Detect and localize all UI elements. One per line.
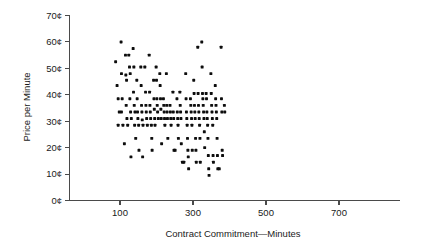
data-point xyxy=(212,154,215,157)
data-point xyxy=(155,97,158,100)
data-point xyxy=(211,111,214,114)
data-point xyxy=(128,97,131,100)
data-point xyxy=(180,117,183,120)
x-axis-tick-label: 100 xyxy=(112,207,128,218)
data-point xyxy=(223,111,226,114)
data-point xyxy=(136,111,139,114)
data-point xyxy=(162,97,165,100)
data-point xyxy=(201,92,204,95)
data-point xyxy=(160,117,163,120)
data-point xyxy=(211,117,214,120)
data-point xyxy=(166,137,169,140)
data-points-layer xyxy=(114,40,226,176)
data-point xyxy=(197,111,200,114)
data-point xyxy=(172,111,175,114)
data-point xyxy=(221,154,224,157)
data-point xyxy=(125,79,128,82)
data-point xyxy=(203,146,206,149)
data-point xyxy=(178,91,181,94)
data-point xyxy=(220,97,223,100)
data-point xyxy=(126,124,129,127)
data-point xyxy=(152,79,155,82)
data-point xyxy=(186,137,189,140)
data-point xyxy=(193,104,196,107)
data-point xyxy=(196,46,199,49)
data-point xyxy=(133,124,136,127)
y-axis-tick-label: 50¢ xyxy=(46,63,62,74)
data-point xyxy=(153,97,156,100)
data-point xyxy=(220,46,223,49)
data-point xyxy=(190,117,193,120)
data-point xyxy=(135,79,138,82)
data-point xyxy=(162,104,165,107)
data-point xyxy=(221,149,224,152)
data-point xyxy=(163,117,166,120)
data-point xyxy=(185,111,188,114)
data-point xyxy=(214,84,217,87)
data-point xyxy=(129,111,132,114)
data-point xyxy=(116,84,119,87)
data-point xyxy=(156,111,159,114)
data-point xyxy=(158,72,161,75)
data-point xyxy=(223,104,226,107)
data-point xyxy=(127,54,130,57)
data-point xyxy=(169,111,172,114)
data-point xyxy=(166,111,169,114)
data-point xyxy=(190,124,193,127)
data-point xyxy=(200,40,203,43)
y-axis-tick-label: 60¢ xyxy=(46,36,62,47)
data-point xyxy=(155,79,158,82)
data-point xyxy=(132,91,135,94)
data-point xyxy=(175,97,178,100)
data-point xyxy=(153,108,156,111)
y-axis: 0¢10¢20¢30¢40¢50¢60¢70¢ xyxy=(46,10,69,206)
data-point xyxy=(208,174,211,177)
data-point xyxy=(128,66,131,69)
data-point xyxy=(124,54,127,57)
data-point xyxy=(189,97,192,100)
data-point xyxy=(177,124,180,127)
data-point xyxy=(141,118,144,121)
data-point xyxy=(125,104,128,107)
data-point xyxy=(143,66,146,69)
data-point xyxy=(176,117,179,120)
data-point xyxy=(186,124,189,127)
data-point xyxy=(153,117,156,120)
data-point xyxy=(159,84,162,87)
x-axis: 100300500700 xyxy=(70,201,401,218)
data-point xyxy=(180,142,183,145)
data-point xyxy=(129,72,132,75)
data-point xyxy=(177,137,180,140)
data-point xyxy=(144,91,147,94)
data-point xyxy=(171,91,174,94)
data-point xyxy=(154,124,157,127)
data-point xyxy=(215,104,218,107)
data-point xyxy=(134,111,137,114)
data-point xyxy=(210,92,213,95)
data-point xyxy=(141,155,144,158)
data-point xyxy=(215,111,218,114)
data-point xyxy=(216,154,219,157)
data-point xyxy=(165,72,168,75)
data-point xyxy=(194,117,197,120)
data-point xyxy=(199,161,202,164)
data-point xyxy=(148,54,151,57)
y-axis-title: Price per Minute xyxy=(21,72,32,141)
chart-canvas: 0¢10¢20¢30¢40¢50¢60¢70¢ 100300500700 Con… xyxy=(0,0,425,250)
data-point xyxy=(144,104,147,107)
data-point xyxy=(148,91,151,94)
data-point xyxy=(133,104,136,107)
data-point xyxy=(149,117,152,120)
data-point xyxy=(185,117,188,120)
data-point xyxy=(120,72,123,75)
data-point xyxy=(194,137,197,140)
data-point xyxy=(205,92,208,95)
y-axis-tick-label: 40¢ xyxy=(46,89,62,100)
data-point xyxy=(195,161,198,164)
y-axis-tick-label: 10¢ xyxy=(46,168,62,179)
data-point xyxy=(184,72,187,75)
data-point xyxy=(137,124,140,127)
data-point xyxy=(159,108,162,111)
data-point xyxy=(186,149,189,152)
data-point xyxy=(140,111,143,114)
